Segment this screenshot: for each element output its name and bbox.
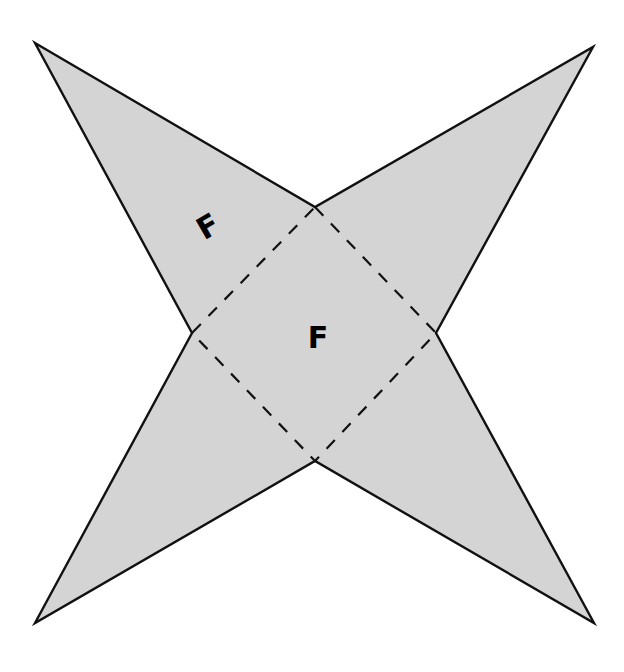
face-label-base: F xyxy=(308,320,329,355)
pyramid-net-diagram: F F xyxy=(0,0,624,672)
